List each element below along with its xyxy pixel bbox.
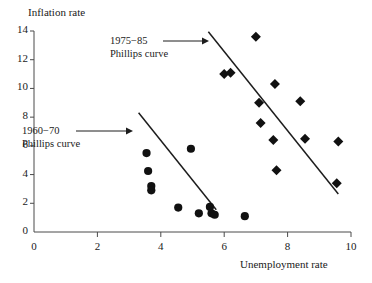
data-point-diamond xyxy=(300,134,310,144)
data-point-diamond xyxy=(256,118,266,128)
x-tick-label: 10 xyxy=(341,240,361,252)
x-tick-label: 2 xyxy=(87,240,107,252)
data-point-circle xyxy=(241,212,249,220)
x-axis-title: Unemployment rate xyxy=(240,258,328,270)
x-tick-label: 8 xyxy=(278,240,298,252)
y-tick-label: 14 xyxy=(10,23,28,35)
x-tick-label: 4 xyxy=(151,240,171,252)
data-point-diamond xyxy=(272,165,282,175)
y-tick-label: 12 xyxy=(10,52,28,64)
annotation-1960-70-line2: Phillips curve xyxy=(22,137,80,150)
trend-lines-group xyxy=(139,32,339,210)
annotation-1960-70-line1: 1960−70 xyxy=(22,124,80,137)
data-point-circle xyxy=(174,203,182,211)
data-point-circle xyxy=(142,149,150,157)
data-point-circle xyxy=(211,211,219,219)
data-point-circle xyxy=(144,167,152,175)
data-point-circle xyxy=(187,145,195,153)
data-point-circle xyxy=(147,186,155,194)
annotation-1960-70: 1960−70 Phillips curve xyxy=(22,124,80,150)
y-tick-label: 2 xyxy=(10,195,28,207)
annotation-1975-85-line1: 1975−85 xyxy=(110,34,168,47)
annotation-1975-85-arrowhead xyxy=(202,38,209,45)
x-tick-label: 0 xyxy=(24,240,44,252)
data-point-diamond xyxy=(295,96,305,106)
y-tick-label: 4 xyxy=(10,167,28,179)
x-tick-label: 6 xyxy=(214,240,234,252)
trend-line xyxy=(139,113,217,210)
data-point-diamond xyxy=(270,79,280,89)
data-point-diamond xyxy=(333,137,343,147)
annotation-1975-85: 1975−85 Phillips curve xyxy=(110,34,168,60)
y-tick-label: 0 xyxy=(10,224,28,236)
data-point-diamond xyxy=(268,135,278,145)
y-axis-title: Inflation rate xyxy=(28,6,85,18)
data-point-circle xyxy=(195,209,203,217)
y-tick-label: 10 xyxy=(10,80,28,92)
data-point-diamond xyxy=(251,32,261,42)
annotation-1960-70-arrowhead xyxy=(126,128,133,135)
data-markers-group xyxy=(142,32,343,221)
annotation-1975-85-line2: Phillips curve xyxy=(110,47,168,60)
phillips-curve-chart: Inflation rate Unemployment rate 0246810… xyxy=(0,0,372,283)
y-tick-label: 8 xyxy=(10,109,28,121)
